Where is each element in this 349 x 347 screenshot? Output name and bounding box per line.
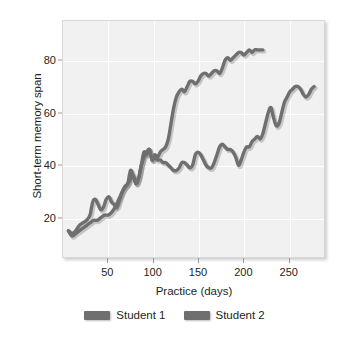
x-tick-mark: [289, 258, 290, 263]
legend-item[interactable]: Student 2: [184, 309, 265, 321]
x-tick-mark: [198, 258, 199, 263]
legend-label: Student 2: [216, 309, 265, 321]
x-tick-label: 200: [223, 266, 263, 278]
x-tick-mark: [243, 258, 244, 263]
legend-label: Student 1: [116, 309, 165, 321]
series-line: [68, 86, 314, 236]
y-tick-label: 80: [30, 54, 56, 66]
x-tick-label: 50: [87, 266, 127, 278]
legend-swatch-icon: [184, 311, 210, 320]
y-axis-tick-labels: 20406080: [24, 20, 56, 258]
y-tick-label: 60: [30, 107, 56, 119]
plot-area: [62, 20, 325, 258]
x-tick-mark: [153, 258, 154, 263]
chart-legend: Student 1Student 2: [0, 309, 349, 321]
series-lines: [63, 21, 324, 257]
x-axis-title: Practice (days): [62, 285, 326, 297]
line-chart-figure: Short-term memory span 20406080 50100150…: [0, 0, 349, 347]
y-tick-label: 40: [30, 159, 56, 171]
legend-item[interactable]: Student 1: [84, 309, 165, 321]
x-tick-label: 250: [269, 266, 309, 278]
series-line: [68, 50, 262, 234]
x-tick-label: 150: [178, 266, 218, 278]
x-tick-mark: [107, 258, 108, 263]
legend-swatch-icon: [84, 311, 110, 320]
y-tick-label: 20: [30, 212, 56, 224]
x-axis-tick-labels: 50100150200250: [62, 262, 325, 282]
x-tick-label: 100: [133, 266, 173, 278]
